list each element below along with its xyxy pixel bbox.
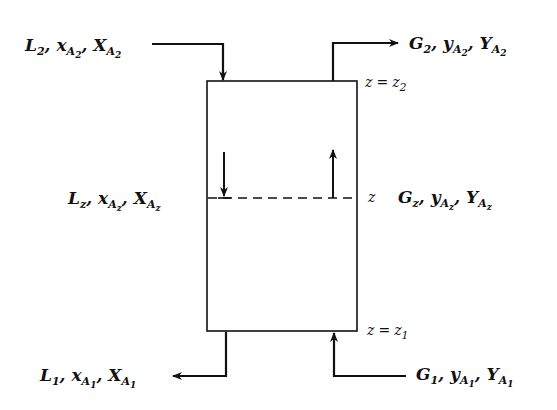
- bottom-gas-inlet-arrow-icon: [334, 333, 406, 376]
- bottom-liquid-label: L1, xA1, XA1: [39, 365, 136, 390]
- top-position-label: z=z2: [364, 74, 407, 94]
- column-diagram: L2, xA2, XA2 G2, yA2, YA2 z=z2 Lz, xAz, …: [0, 0, 557, 410]
- mid-gas-label: Gz, yAz, YAz: [398, 187, 493, 212]
- top-gas-label: G2, yA2, YA2: [409, 33, 507, 58]
- bottom-gas-label: G1, yA1, YA1: [416, 364, 514, 389]
- mid-liquid-label: Lz, xAz, XAz: [67, 188, 161, 213]
- column-box: [207, 81, 357, 331]
- top-liquid-label: L2, xA2, XA2: [24, 35, 121, 60]
- top-liquid-inlet-arrow-icon: [152, 44, 223, 80]
- bottom-position-label: z=z1: [366, 322, 409, 342]
- mid-position-label: z: [367, 189, 376, 205]
- bottom-liquid-outlet-arrow-icon: [173, 332, 226, 376]
